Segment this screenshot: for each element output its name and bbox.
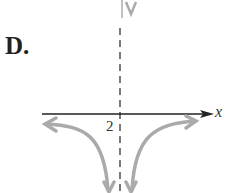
top-residual-arrow xyxy=(122,0,136,18)
tick-label-2: 2 xyxy=(106,118,114,135)
graph-panel: D. 2 x xyxy=(0,0,230,193)
graph-canvas xyxy=(0,0,230,193)
x-axis-label: x xyxy=(215,103,222,121)
right-branch xyxy=(126,116,196,192)
left-branch xyxy=(45,118,114,192)
